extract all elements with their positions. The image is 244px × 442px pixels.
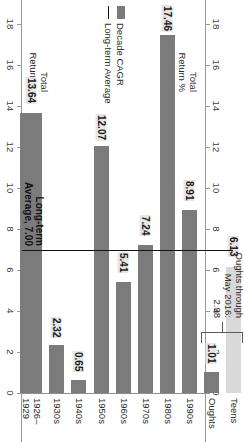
bar-value-label: 8.91 xyxy=(184,180,195,201)
category-label-1950s: 1950s xyxy=(97,398,108,424)
bar[interactable] xyxy=(94,146,109,393)
bar-chart: 18 16 14 12 10 8 6 4 2 0 18 16 14 xyxy=(0,0,227,442)
axis-tick-label: 14 xyxy=(5,101,16,112)
chart-legend: Decade CAGR Long-term Average xyxy=(103,6,127,104)
category-label-1980s: 1980s xyxy=(163,398,174,424)
bar-group-1930s: 2.32 xyxy=(49,0,64,442)
bar-group-1970s: 7.24 xyxy=(138,0,153,442)
axis-tick-label: 0 xyxy=(5,390,16,395)
x-axis-bottom: 18 16 14 12 10 8 6 4 2 0 xyxy=(0,0,22,442)
bar[interactable] xyxy=(160,35,175,393)
category-label-1926-1929: 1926– 1929 xyxy=(21,398,42,424)
bar-value-label: 7.24 xyxy=(140,215,151,236)
axis-tick-label: 6 xyxy=(5,267,16,272)
axis-tick-label: 10 xyxy=(5,183,16,194)
category-label-1970s: 1970s xyxy=(141,398,152,424)
axis-tick-label: 4 xyxy=(5,308,16,313)
long-term-average-line2: Average, 7.00 xyxy=(23,182,34,246)
axis-tick-label: 12 xyxy=(5,142,16,153)
bar[interactable] xyxy=(182,210,197,393)
axis-tick-label: 18 xyxy=(5,19,16,30)
bar[interactable] xyxy=(71,380,86,393)
annotation-line2: May 2016: xyxy=(223,274,227,318)
category-label-1930s: 1930s xyxy=(52,398,63,424)
category-label-1940s: 1940s xyxy=(74,398,85,424)
long-term-average-label: Long-term Average, 7.00 xyxy=(23,150,45,246)
annotation-bracket xyxy=(201,332,227,343)
bar-value-label: 12.07 xyxy=(96,114,107,141)
bar-value-label: 5.41 xyxy=(118,252,129,273)
axis-tick-label: 16 xyxy=(5,60,16,71)
bar[interactable] xyxy=(116,282,131,393)
chart-stage: 18 16 14 12 10 8 6 4 2 0 18 16 14 xyxy=(0,0,227,442)
bar-group-1940s: 0.65 xyxy=(71,0,86,442)
category-label-1990s: 1990s xyxy=(185,398,196,424)
bar-value-label: 13.64 xyxy=(26,77,37,104)
legend-item-long-term-average: Long-term Average xyxy=(103,6,115,104)
category-label-1960s: 1960s xyxy=(119,398,130,424)
bar-group-1990s: 8.91 xyxy=(182,0,197,442)
category-label-line2: 1929 xyxy=(21,398,32,419)
long-term-average-line xyxy=(22,250,227,251)
legend-label: Long-term Average xyxy=(103,23,114,104)
bar-value-label: 2.32 xyxy=(51,317,62,338)
category-label-line1: 1926– xyxy=(32,398,43,424)
annotation-bracket-tick xyxy=(222,322,223,332)
bar-group-oughts: 1.01 xyxy=(204,0,219,442)
bar-group-teens xyxy=(226,0,227,442)
bar-group-1980s: 17.46 xyxy=(160,0,175,442)
category-label-oughts: Oughts xyxy=(207,398,218,429)
legend-line-icon xyxy=(108,6,109,19)
axis-tick-label: 2 xyxy=(5,349,16,354)
bar[interactable] xyxy=(49,345,64,393)
legend-swatch-icon xyxy=(117,6,125,19)
long-term-average-line1: Long-term xyxy=(34,197,45,246)
legend-item-decade-cagr: Decade CAGR xyxy=(115,6,127,104)
legend-label: Decade CAGR xyxy=(115,23,126,86)
bar-value-label: 17.46 xyxy=(162,5,173,32)
oughts-through-may-2016-annotation: Oughts through May 2016: 2.98 xyxy=(212,224,227,318)
bar[interactable] xyxy=(204,372,219,393)
bar[interactable] xyxy=(138,245,153,393)
axis-tick-label: 8 xyxy=(5,226,16,231)
annotation-line3: 2.98 xyxy=(212,300,223,319)
bar-value-label: 1.01 xyxy=(206,343,217,364)
bar-value-label: 0.65 xyxy=(73,351,84,372)
